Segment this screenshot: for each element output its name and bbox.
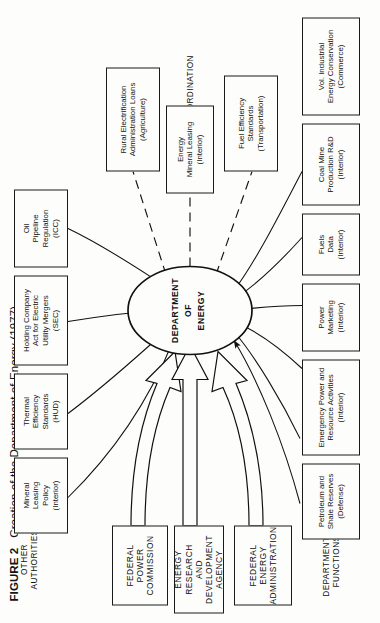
box-title: Energy Mineral Leasing (176, 119, 195, 179)
box-federal-power-commission[interactable]: FEDERAL POWER COMMISSION (112, 525, 168, 605)
agency-line-2: AND DEVELOPMENT (194, 528, 215, 610)
box-power-marketing[interactable]: Power Marketing (Interior) (302, 283, 360, 351)
agency-line-2: POWER (135, 533, 145, 597)
box-dept: (Interior) (336, 365, 346, 449)
box-dept: (ICC) (51, 207, 61, 249)
box-coal-mine-production-rd[interactable]: Coal Mine Production R&D (Interior) (302, 123, 360, 205)
box-title: Emergency Power and Resource Activities (317, 365, 336, 449)
box-title: Rural Electrification Administration Loa… (119, 80, 138, 158)
box-title: Mineral Leasing Policy (22, 478, 51, 512)
box-oil-pipeline-regulation[interactable]: Oil Pipeline Regulation (ICC) (14, 189, 68, 267)
box-thermal-efficiency-standards[interactable]: Thermal Efficiency Standards (HUD) (14, 373, 68, 449)
box-federal-energy-administration[interactable]: FEDERAL ENERGY ADMINISTRATION (234, 525, 292, 605)
box-title: Thermal Efficiency Standards (22, 391, 51, 431)
box-title: Fuel Efficiency Standards (237, 93, 256, 153)
box-fuel-efficiency-standards[interactable]: Fuel Efficiency Standards (Transportatio… (224, 75, 278, 171)
box-dept: (SEC) (51, 287, 61, 354)
agency-line-1: FEDERAL (248, 524, 258, 606)
box-dept: (Commerce) (336, 27, 346, 105)
box-dept: (Defense) (336, 471, 346, 531)
authority-connectors (68, 228, 172, 497)
box-dept: (Interior) (195, 119, 205, 179)
box-energy-research-and-development-agency[interactable]: ENERGY RESEARCH AND DEVELOPMENT AGENCY (174, 525, 224, 613)
box-dept: (Interior) (336, 134, 346, 195)
box-mineral-leasing-policy[interactable]: Mineral Leasing Policy (Interior) (14, 457, 68, 533)
box-energy-mineral-leasing[interactable]: Energy Mineral Leasing (Interior) (166, 105, 214, 193)
agency-line-3: ADMINISTRATION (268, 524, 278, 606)
box-dept: (Transportation) (256, 93, 266, 153)
agency-line-1: ENERGY RESEARCH (173, 528, 194, 610)
agency-merge-arrows (131, 345, 263, 525)
agency-line-2: ENERGY (258, 524, 268, 606)
box-dept: (Agriculture) (138, 80, 148, 158)
box-vol-industrial-energy-conservation[interactable]: Vol. Industrial Energy Conservation (Com… (302, 17, 360, 115)
agency-line-1: FEDERAL (125, 533, 135, 597)
box-dept: (Interior) (336, 298, 346, 337)
box-title: Fuels Data (317, 227, 336, 261)
box-holding-company-act[interactable]: Holding Company Act for Electric Utility… (14, 275, 68, 365)
box-title: Holding Company Act for Electric Utility… (22, 287, 51, 354)
agency-line-3: COMMISSION (145, 533, 155, 597)
box-rural-electrification-administration-loans[interactable]: Rural Electrification Administration Loa… (106, 67, 160, 171)
box-emergency-power-and-resource-activities[interactable]: Emergency Power and Resource Activities … (302, 359, 360, 455)
figure-canvas: FIGURE 2 Creation of the Department of E… (0, 0, 380, 623)
box-fuels-data[interactable]: Fuels Data (Interior) (302, 213, 360, 275)
agency-line-3: AGENCY (214, 528, 224, 610)
box-title: Petroleum and Shale Reserves (317, 471, 336, 531)
department-of-energy-ellipse (128, 266, 252, 354)
box-dept: (HUD) (51, 391, 61, 431)
box-title: Oil Pipeline Regulation (22, 207, 51, 249)
box-dept: (Interior) (336, 227, 346, 261)
box-petroleum-and-shale-reserves[interactable]: Petroleum and Shale Reserves (Defense) (302, 463, 360, 539)
box-title: Coal Mine Production R&D (317, 134, 336, 195)
box-title: Vol. Industrial Energy Conservation (317, 27, 336, 105)
box-dept: (Interior) (51, 478, 61, 512)
box-title: Power Marketing (317, 298, 336, 337)
